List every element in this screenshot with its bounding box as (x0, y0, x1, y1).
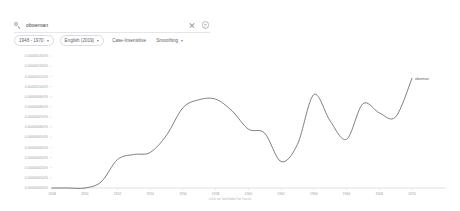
x-axis-tick-label: 1956 (179, 192, 187, 196)
y-axis-tick-label: 0.0000000300% (25, 156, 48, 160)
y-axis-tick-label: 0.0000000600% (25, 125, 48, 129)
y-axis-tick-label: 0.0000001100% (25, 75, 48, 79)
x-axis-tick-label: 1962 (277, 192, 285, 196)
chevron-down-icon (181, 40, 183, 42)
chevron-down-icon (97, 40, 99, 42)
info-icon[interactable]: ? (202, 21, 210, 29)
chip-case-insensitive[interactable]: Case-Insensitive (110, 36, 148, 45)
search-actions: ? (189, 21, 211, 29)
y-axis-tick-label: 0.0000000400% (25, 146, 48, 150)
search-input[interactable] (26, 21, 189, 29)
x-axis-tick-label: 1948 (48, 192, 56, 196)
y-axis-tick-label: 0.0000000800% (25, 105, 48, 109)
chip-smoothing[interactable]: Smoothing (154, 36, 185, 45)
search-bar[interactable]: ? (14, 18, 210, 33)
info-glyph: ? (203, 23, 209, 29)
filter-chips: 1948 - 1970 English (2019) Case-Insensit… (14, 35, 185, 46)
series-label-oboeman[interactable]: oboeman (415, 77, 429, 81)
x-axis-tick-label: 1970 (408, 192, 416, 196)
x-axis-tick-label: 1952 (114, 192, 122, 196)
close-icon[interactable] (189, 22, 195, 28)
y-axis-tick-label: 0.0000001200% (25, 64, 48, 68)
chip-corpus-label: English (2019) (65, 38, 95, 44)
chip-date-range[interactable]: 1948 - 1970 (14, 35, 54, 46)
chip-date-range-label: 1948 - 1970 (19, 38, 44, 44)
chip-corpus[interactable]: English (2019) (60, 35, 105, 46)
x-axis-tick-label: 1964 (310, 192, 318, 196)
x-axis-tick-label: 1954 (146, 192, 154, 196)
y-axis-tick-label: 0.0000000000% (25, 186, 48, 190)
y-axis-tick-label: 0.0000000200% (25, 166, 48, 170)
chip-smoothing-label: Smoothing (156, 38, 178, 44)
x-axis-tick-label: 1958 (212, 192, 220, 196)
ngram-viewer-app: ? 1948 - 1970 English (2019) Case-Insens… (0, 0, 460, 211)
chip-case-insensitive-label: Case-Insensitive (112, 38, 146, 44)
chart-caption: click on line/label for focus (0, 197, 460, 201)
y-axis-tick-label: 0.0000001300% (25, 54, 48, 58)
x-axis-tick-label: 1966 (343, 192, 351, 196)
search-icon (14, 22, 21, 29)
y-axis-tick-label: 0.0000000500% (25, 135, 48, 139)
chart-svg[interactable]: 0.0000000000%0.0000000100%0.0000000200%0… (0, 52, 460, 204)
x-axis-tick-label: 1960 (245, 192, 253, 196)
x-axis-tick-label: 1950 (81, 192, 89, 196)
y-axis-tick-label: 0.0000000700% (25, 115, 48, 119)
y-axis-tick-label: 0.0000001000% (25, 85, 48, 89)
series-line-oboeman[interactable] (52, 78, 412, 188)
y-axis-tick-label: 0.0000000900% (25, 95, 48, 99)
y-axis-tick-label: 0.0000000100% (25, 176, 48, 180)
chevron-down-icon (47, 40, 49, 42)
x-axis-tick-label: 1968 (375, 192, 383, 196)
ngram-chart[interactable]: 0.0000000000%0.0000000100%0.0000000200%0… (0, 52, 460, 204)
